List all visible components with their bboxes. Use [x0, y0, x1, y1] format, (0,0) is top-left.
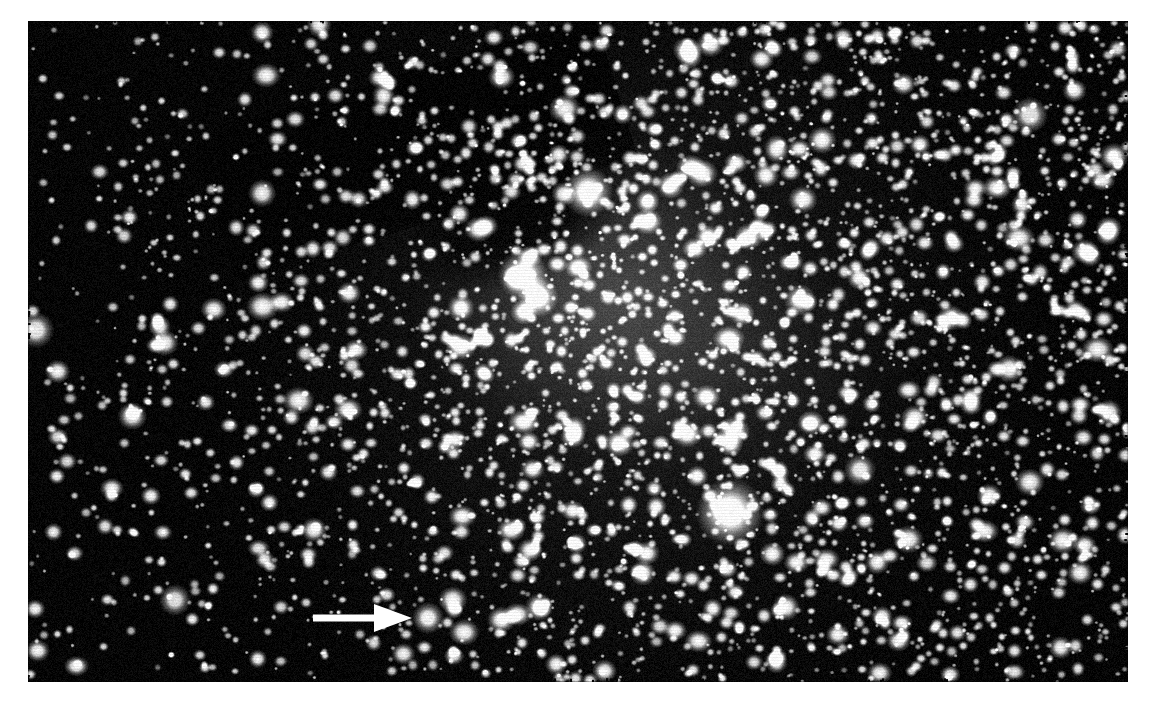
star-field-canvas: [28, 21, 1128, 682]
photograph-page: [0, 0, 1154, 705]
astronomical-plate: [28, 21, 1128, 682]
